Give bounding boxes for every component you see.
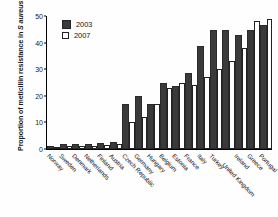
y-axis-tick-mark bbox=[44, 149, 46, 150]
bar-2003 bbox=[60, 144, 67, 149]
bar-group bbox=[210, 16, 223, 149]
bar-group bbox=[172, 16, 185, 149]
x-axis-line bbox=[46, 149, 272, 150]
bar-group bbox=[197, 16, 210, 149]
bar-2003 bbox=[235, 35, 242, 149]
bar-group bbox=[160, 16, 173, 149]
bar-group bbox=[147, 16, 160, 149]
bar-group bbox=[260, 16, 273, 149]
bar-2003 bbox=[160, 83, 167, 149]
bar-2003 bbox=[247, 30, 254, 149]
bar-group bbox=[235, 16, 248, 149]
bar-2003 bbox=[147, 104, 154, 149]
y-axis-title-text: Proportion of meticillin resistance in bbox=[17, 30, 25, 151]
bar-2003 bbox=[185, 73, 192, 149]
bar-group bbox=[135, 16, 148, 149]
bar-2003 bbox=[72, 144, 79, 149]
legend-label-2003: 2003 bbox=[76, 20, 92, 29]
x-axis-labels: NorwaySwedenDenmarkNetherlandsFinlandAus… bbox=[47, 152, 273, 214]
bar-2003 bbox=[197, 46, 204, 149]
y-axis-tick-mark bbox=[44, 69, 46, 70]
y-axis-title: Proportion of meticillin resistance in S… bbox=[17, 1, 25, 151]
legend-item-2007: 2007 bbox=[62, 31, 92, 40]
bar-2003 bbox=[135, 96, 142, 149]
y-axis-tick-mark bbox=[44, 122, 46, 123]
y-axis-tick-mark bbox=[44, 16, 46, 17]
chart-figure: Proportion of meticillin resistance in S… bbox=[0, 0, 278, 217]
open-square-icon bbox=[62, 32, 69, 39]
bar-2003 bbox=[172, 86, 179, 149]
bar-group bbox=[110, 16, 123, 149]
bar-group bbox=[185, 16, 198, 149]
bar-2003 bbox=[85, 144, 92, 149]
bar-group bbox=[222, 16, 235, 149]
bar-2003 bbox=[97, 143, 104, 149]
legend-label-2007: 2007 bbox=[74, 31, 90, 40]
x-axis-label: United Kingdom bbox=[221, 161, 257, 198]
bar-group bbox=[122, 16, 135, 149]
bar-2003 bbox=[110, 142, 117, 149]
y-axis-tick-mark bbox=[44, 42, 46, 43]
legend-item-2003: 2003 bbox=[62, 20, 92, 29]
bar-group bbox=[97, 16, 110, 149]
bar-group bbox=[47, 16, 60, 149]
bar-2003 bbox=[222, 30, 229, 149]
y-axis-title-species: S aureus bbox=[17, 1, 25, 30]
bar-2003 bbox=[122, 104, 129, 149]
bar-2003 bbox=[210, 30, 217, 149]
chart-legend: 2003 2007 bbox=[62, 20, 92, 42]
bar-2003 bbox=[260, 25, 267, 149]
bar-group bbox=[247, 16, 260, 149]
y-axis-tick-mark bbox=[44, 95, 46, 96]
filled-square-icon bbox=[62, 20, 71, 29]
bar-2003 bbox=[47, 146, 54, 149]
bar-2007 bbox=[267, 19, 272, 149]
